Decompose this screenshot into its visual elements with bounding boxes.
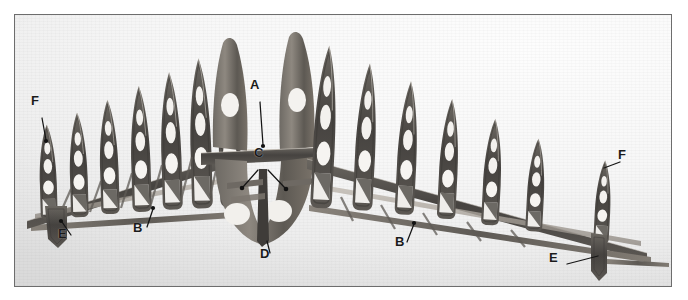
callout-label-F-left: F — [31, 94, 39, 107]
rib — [38, 124, 58, 219]
lightening-hole — [221, 93, 239, 117]
leader-dot — [284, 187, 289, 192]
lightening-hole — [224, 203, 250, 225]
airframe-illustration — [14, 14, 672, 287]
rib — [129, 86, 152, 212]
leader-dot — [59, 219, 63, 223]
rib — [188, 58, 213, 208]
callout-label-A: A — [250, 78, 260, 91]
leader-A — [260, 102, 263, 145]
lightening-hole — [266, 200, 292, 222]
callout-label-F-right: F — [618, 148, 626, 161]
leader-B-right — [407, 224, 414, 242]
callout-label-C: C — [254, 146, 264, 159]
rib — [159, 72, 183, 210]
photograph-plate — [14, 14, 672, 287]
callout-label-B-right: B — [395, 235, 405, 248]
right-wing-assembly — [307, 45, 669, 281]
rib — [352, 63, 380, 211]
leader-dot — [240, 186, 245, 191]
rib — [593, 160, 613, 244]
rib — [98, 100, 120, 215]
callout-label-E-left: E — [58, 227, 67, 240]
rib — [525, 138, 547, 232]
callout-label-B-left: B — [133, 221, 143, 234]
rib — [68, 113, 89, 218]
leader-dot — [151, 206, 155, 210]
leader-dot — [412, 221, 416, 225]
rib — [481, 118, 504, 225]
leader-dot — [44, 139, 48, 143]
callout-label-E-right: E — [549, 251, 558, 264]
screenshot-root: F A C B E D B E F — [0, 0, 688, 300]
lightening-hole — [288, 88, 306, 112]
callout-label-D: D — [260, 247, 270, 260]
